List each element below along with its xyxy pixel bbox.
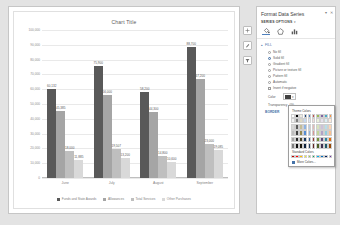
theme-shade-swatch[interactable] <box>320 137 324 143</box>
theme-shade-swatch[interactable] <box>328 124 332 130</box>
theme-shade-swatch[interactable] <box>324 137 328 143</box>
bar-column[interactable]: 10,600 <box>167 30 176 178</box>
tab-series-options[interactable] <box>290 27 298 35</box>
theme-shade-swatch[interactable] <box>308 143 312 149</box>
theme-shade-swatch[interactable] <box>291 143 295 149</box>
bar[interactable] <box>65 151 74 178</box>
bar[interactable] <box>158 156 167 178</box>
bar[interactable] <box>47 89 56 178</box>
standard-color-swatch[interactable] <box>299 155 303 159</box>
theme-shade-swatch[interactable] <box>299 118 303 124</box>
theme-shade-swatch[interactable] <box>320 143 324 149</box>
standard-color-swatch[interactable] <box>329 155 333 159</box>
theme-shade-swatch[interactable] <box>316 118 320 124</box>
theme-shade-swatch[interactable] <box>303 130 307 136</box>
fill-option-radio[interactable] <box>268 81 271 84</box>
theme-shade-swatch[interactable] <box>324 143 328 149</box>
theme-shade-swatch[interactable] <box>324 130 328 136</box>
bar[interactable] <box>205 144 214 178</box>
bar-column[interactable]: 13,200 <box>121 30 130 178</box>
bar[interactable] <box>187 47 196 178</box>
legend-item[interactable]: Allowances <box>103 197 124 201</box>
theme-shade-swatch[interactable] <box>312 143 316 149</box>
theme-shade-swatch[interactable] <box>324 124 328 130</box>
legend-item[interactable]: Total Services <box>131 197 155 201</box>
legend-item[interactable]: Other Purchases <box>162 197 190 201</box>
theme-shade-swatch[interactable] <box>324 118 328 124</box>
theme-shade-swatch[interactable] <box>303 118 307 124</box>
theme-shade-swatch[interactable] <box>308 124 312 130</box>
standard-color-swatch[interactable] <box>308 155 312 159</box>
theme-shade-swatch[interactable] <box>328 137 332 143</box>
theme-shades-grid[interactable] <box>291 118 332 149</box>
standard-color-swatch[interactable] <box>324 155 328 159</box>
theme-shade-swatch[interactable] <box>299 143 303 149</box>
fill-option-radio[interactable] <box>268 63 271 66</box>
theme-shade-swatch[interactable] <box>308 118 312 124</box>
tab-fill-line[interactable] <box>262 27 270 35</box>
bar-column[interactable]: 11,885 <box>74 30 83 178</box>
bar[interactable] <box>112 149 121 178</box>
bar-column[interactable]: 19,085 <box>214 30 223 178</box>
theme-shade-swatch[interactable] <box>295 130 299 136</box>
plot-area[interactable]: 100,00090,00080,00070,00060,00050,00040,… <box>42 30 228 178</box>
bar-column[interactable]: 67,200 <box>196 30 205 178</box>
theme-shade-swatch[interactable] <box>312 130 316 136</box>
chart-elements-button[interactable] <box>243 26 252 35</box>
bar-column[interactable]: 14,800 <box>158 30 167 178</box>
bar-column[interactable]: 19,507 <box>112 30 121 178</box>
bar-column[interactable]: 18,000 <box>65 30 74 178</box>
tab-effects[interactable] <box>276 27 284 35</box>
fill-option-radio[interactable] <box>268 69 271 72</box>
standard-color-swatch[interactable] <box>320 155 324 159</box>
more-colors-item[interactable]: More Colors... <box>291 160 332 164</box>
theme-shade-swatch[interactable] <box>291 124 295 130</box>
theme-shade-swatch[interactable] <box>316 130 320 136</box>
theme-shade-swatch[interactable] <box>299 137 303 143</box>
theme-shade-swatch[interactable] <box>295 118 299 124</box>
bar-column[interactable]: 56,000 <box>103 30 112 178</box>
theme-shade-swatch[interactable] <box>295 137 299 143</box>
theme-shade-swatch[interactable] <box>291 137 295 143</box>
theme-shade-swatch[interactable] <box>291 130 295 136</box>
invert-if-negative-checkbox[interactable] <box>268 87 271 90</box>
bar[interactable] <box>94 66 103 178</box>
theme-shade-swatch[interactable] <box>316 124 320 130</box>
theme-shade-swatch[interactable] <box>303 137 307 143</box>
theme-shade-swatch[interactable] <box>312 124 316 130</box>
fill-section-header[interactable]: ▴ FILL <box>261 43 331 47</box>
theme-shade-swatch[interactable] <box>303 143 307 149</box>
theme-shade-swatch[interactable] <box>295 124 299 130</box>
fill-option-radio[interactable] <box>268 57 271 60</box>
bar-column[interactable]: 58,200 <box>140 30 149 178</box>
bar-column[interactable]: 45,385 <box>56 30 65 178</box>
bar[interactable] <box>167 162 176 178</box>
color-picker-popup[interactable]: Theme Colors Standard Colors More Colors… <box>288 105 335 167</box>
chart-filters-button[interactable] <box>243 56 252 65</box>
theme-shade-swatch[interactable] <box>299 130 303 136</box>
bar[interactable] <box>196 79 205 178</box>
legend-item[interactable]: Funds and State Awards <box>57 197 96 201</box>
bar[interactable] <box>214 150 223 178</box>
theme-shade-swatch[interactable] <box>328 130 332 136</box>
fill-option-radio[interactable] <box>268 51 271 54</box>
theme-shade-swatch[interactable] <box>308 137 312 143</box>
chart-styles-button[interactable] <box>243 41 252 50</box>
theme-shade-swatch[interactable] <box>328 118 332 124</box>
chart-legend[interactable]: Funds and State AwardsAllowancesTotal Se… <box>14 197 234 201</box>
bar[interactable] <box>56 111 65 178</box>
pane-close-button[interactable]: ✕ <box>330 11 333 15</box>
fill-option-radio[interactable] <box>268 75 271 78</box>
standard-colors-grid[interactable] <box>291 155 332 159</box>
standard-color-swatch[interactable] <box>316 155 320 159</box>
bar-column[interactable]: 23,000 <box>205 30 214 178</box>
theme-shade-swatch[interactable] <box>299 124 303 130</box>
bar-column[interactable]: 44,300 <box>149 30 158 178</box>
theme-shade-swatch[interactable] <box>303 124 307 130</box>
theme-shade-swatch[interactable] <box>316 137 320 143</box>
theme-shade-swatch[interactable] <box>295 143 299 149</box>
pane-minimize-button[interactable]: ▾ <box>325 11 327 15</box>
bar[interactable] <box>140 92 149 178</box>
standard-color-swatch[interactable] <box>312 155 316 159</box>
chart-object[interactable]: Chart Title 100,00090,00080,00070,00060,… <box>13 11 235 209</box>
